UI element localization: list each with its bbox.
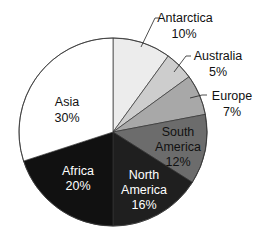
label-north-america-name: North [129, 168, 160, 182]
label-south-america-name: South [162, 125, 195, 139]
label-asia-name: Asia [55, 95, 79, 109]
label-north-america-name2: America [121, 183, 167, 197]
label-south-america-name2: America [155, 140, 201, 154]
pie-chart: Antarctica 10% Australia 5% Europe 7% So… [0, 0, 268, 243]
label-australia-pct: 5% [209, 65, 227, 79]
label-australia-name: Australia [194, 49, 243, 63]
label-africa-pct: 20% [65, 179, 90, 193]
label-antarctica-name: Antarctica [157, 11, 213, 25]
label-europe-name: Europe [212, 89, 252, 103]
label-europe-pct: 7% [223, 105, 241, 119]
label-north-america-pct: 16% [131, 198, 156, 212]
label-south-america-pct: 12% [165, 155, 190, 169]
label-africa-name: Africa [62, 164, 94, 178]
label-asia-pct: 30% [54, 111, 79, 125]
label-antarctica-pct: 10% [171, 27, 196, 41]
